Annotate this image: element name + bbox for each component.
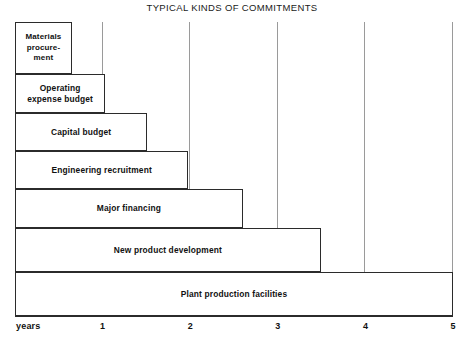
- x-axis-tick-1: 1: [100, 321, 105, 331]
- chart-root: TYPICAL KINDS OF COMMITMENTS Materials p…: [0, 0, 464, 348]
- bar: Operating expense budget: [15, 74, 105, 113]
- x-axis-label: years: [16, 321, 41, 331]
- bar: New product development: [15, 228, 321, 272]
- bar-label: Capital budget: [49, 127, 113, 138]
- bar-label: Plant production facilities: [179, 289, 289, 300]
- bar-label: Operating expense budget: [25, 83, 95, 105]
- x-axis-tick-2: 2: [188, 321, 193, 331]
- bar: Capital budget: [15, 113, 147, 151]
- plot-area: Materials procure- mentOperating expense…: [15, 22, 453, 316]
- x-axis-tick-3: 3: [275, 321, 280, 331]
- bar: Engineering recruitment: [15, 151, 188, 189]
- bar: Plant production facilities: [15, 272, 453, 316]
- x-axis-line: [15, 316, 453, 317]
- bar-label: Engineering recruitment: [50, 165, 154, 176]
- x-axis-tick-4: 4: [363, 321, 368, 331]
- bar-label: Materials procure- ment: [23, 32, 63, 63]
- bar-label: New product development: [112, 245, 224, 256]
- x-axis-tick-5: 5: [450, 321, 455, 331]
- chart-title: TYPICAL KINDS OF COMMITMENTS: [0, 2, 464, 13]
- bar: Materials procure- ment: [15, 22, 72, 74]
- bar: Major financing: [15, 189, 243, 228]
- bar-label: Major financing: [95, 203, 163, 214]
